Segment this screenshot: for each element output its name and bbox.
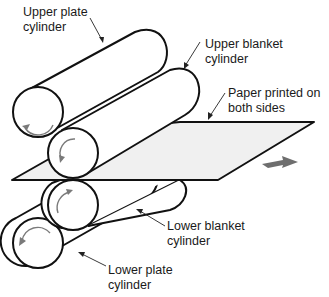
leader-lower-plate bbox=[78, 252, 106, 266]
leader-paper bbox=[208, 93, 225, 120]
label-upper-plate-line2: cylinder bbox=[23, 20, 88, 35]
label-lower-blanket-line1: Lower blanket bbox=[167, 219, 245, 234]
label-upper-blanket-cylinder: Upper blanket cylinder bbox=[205, 37, 283, 67]
paper-direction-arrow-icon bbox=[262, 156, 298, 168]
label-lower-plate-line2: cylinder bbox=[108, 278, 173, 293]
leader-upper-plate bbox=[90, 18, 104, 43]
label-lower-plate-cylinder: Lower plate cylinder bbox=[108, 263, 173, 293]
label-lower-blanket-line2: cylinder bbox=[167, 234, 245, 249]
label-paper-line1: Paper printed on bbox=[228, 86, 320, 101]
label-paper: Paper printed on both sides bbox=[228, 86, 320, 116]
label-upper-blanket-line2: cylinder bbox=[205, 52, 283, 67]
label-upper-blanket-line1: Upper blanket bbox=[205, 37, 283, 52]
label-lower-plate-line1: Lower plate bbox=[108, 263, 173, 278]
leader-upper-blanket bbox=[184, 42, 200, 69]
label-upper-plate-cylinder: Upper plate cylinder bbox=[23, 5, 88, 35]
label-upper-plate-line1: Upper plate bbox=[23, 5, 88, 20]
label-lower-blanket-cylinder: Lower blanket cylinder bbox=[167, 219, 245, 249]
label-paper-line2: both sides bbox=[228, 101, 320, 116]
